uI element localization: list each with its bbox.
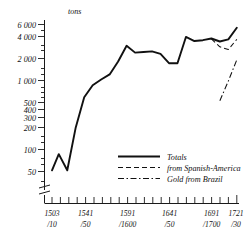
y-axis-minor-ticks: [41, 31, 45, 182]
y-tick-label: 200: [24, 124, 36, 133]
legend-label-totals: Totals: [167, 153, 187, 162]
x-tick-label-top: 1721: [228, 209, 243, 218]
x-tick-label-top: 1641: [162, 209, 177, 218]
x-tick-label-bottom: /50: [80, 220, 91, 229]
x-tick-label-bottom: /30: [230, 220, 241, 229]
x-tick-label-bottom: /50: [164, 220, 175, 229]
legend-label-spanish-america: from Spanish-America: [167, 164, 241, 173]
x-tick-label-top: 1591: [120, 209, 135, 218]
x-tick-label-top: 1503: [44, 209, 59, 218]
y-tick-label: 100: [24, 146, 36, 155]
y-tick-label: 300: [23, 114, 36, 123]
y-tick-label: 1 000: [18, 77, 36, 86]
x-tick-label-bottom: /10: [46, 220, 57, 229]
y-axis-major-ticks: [38, 25, 45, 172]
x-axis-ticks: [52, 195, 237, 204]
chart-legend: Totals from Spanish-America Gold from Br…: [118, 153, 241, 184]
x-axis-tick-labels: 1503 /10 1541 /50 1591 /1600 1641 /50 16…: [44, 209, 243, 229]
x-tick-label-bottom: /1700: [202, 220, 221, 229]
y-axis-tick-labels: 6 000 4 000 2 000 1 000 500 400 300 200 …: [18, 21, 36, 177]
x-tick-label-top: 1691: [204, 209, 219, 218]
chart-container: tons: [0, 0, 246, 241]
series-line-gold-from-brazil: [220, 60, 237, 101]
y-tick-label: 4 000: [18, 33, 36, 42]
y-tick-label: 50: [28, 168, 36, 177]
y-axis-title: tons: [68, 7, 81, 16]
series-line-totals: [52, 28, 237, 171]
y-tick-label: 2 000: [18, 55, 36, 64]
y-tick-label: 6 000: [18, 21, 36, 30]
legend-label-gold-from-brazil: Gold from Brazil: [167, 175, 223, 184]
x-tick-label-top: 1541: [78, 209, 93, 218]
x-tick-label-bottom: /1600: [118, 220, 137, 229]
